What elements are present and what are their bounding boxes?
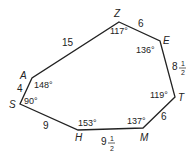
vertex-label-m: M — [140, 132, 149, 143]
angle-label-s: 90° — [24, 96, 38, 106]
angle-label-h: 153° — [78, 118, 97, 128]
vertex-label-s: S — [9, 99, 16, 110]
vertex-label-h: H — [75, 132, 83, 143]
svg-text:2: 2 — [110, 145, 114, 152]
angle-label-z: 117° — [110, 26, 128, 36]
heptagon-outline — [20, 22, 175, 130]
svg-text:8: 8 — [172, 61, 178, 72]
side-label-et: 8 1 2 — [172, 60, 186, 76]
side-label-mh: 9 1 2 — [101, 135, 115, 152]
svg-text:2: 2 — [181, 69, 185, 76]
svg-text:1: 1 — [181, 60, 185, 67]
vertex-label-a: A — [19, 70, 27, 81]
angle-label-a: 148° — [34, 80, 53, 90]
side-label-sa: 4 — [17, 83, 23, 94]
angle-label-e: 136° — [136, 45, 155, 55]
svg-text:9: 9 — [101, 136, 107, 147]
angle-label-m: 137° — [127, 116, 146, 126]
vertex-label-t: T — [178, 92, 185, 103]
side-label-az: 15 — [62, 37, 74, 48]
vertex-label-e: E — [163, 35, 170, 46]
side-label-hs: 9 — [43, 120, 49, 131]
angle-label-t: 119° — [150, 90, 168, 100]
svg-text:1: 1 — [110, 135, 114, 142]
vertex-label-z: Z — [113, 8, 121, 19]
side-label-ze: 6 — [138, 18, 144, 29]
side-label-tm: 6 — [161, 111, 167, 122]
polygon-diagram: Z E T M H S A 117° 136° 119° 137° 153° 9… — [0, 0, 196, 156]
